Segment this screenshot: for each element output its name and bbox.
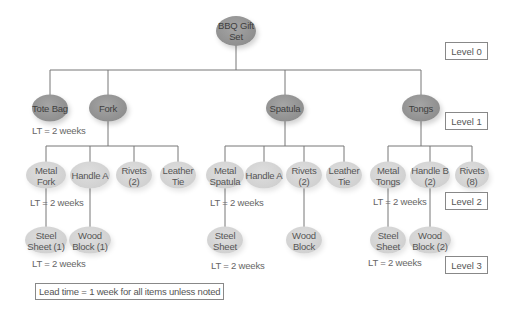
lead-time-steel-sheet-tongs: LT = 2 weeks	[368, 257, 422, 268]
level-1-label: Level 1	[445, 112, 488, 130]
node-metal-spatula: Metal Spatula	[206, 162, 244, 189]
node-steel-sheet-tongs: Steel Sheet	[370, 227, 406, 254]
node-metal-tongs: Metal Tongs	[370, 162, 406, 189]
node-tote-bag: Tote Bag	[32, 95, 68, 122]
node-spatula: Spatula	[266, 95, 304, 122]
node-leather-tie-fork: Leather Tie	[160, 162, 196, 189]
level-0-label: Level 0	[445, 42, 488, 60]
lead-time-metal-fork: LT = 2 weeks	[30, 197, 84, 208]
node-wood-block-2: Wood Block (2)	[409, 227, 451, 254]
node-bbq-gift-set: BBQ Gift Set	[216, 16, 256, 46]
node-handle-a-fork: Handle A	[70, 162, 110, 189]
node-wood-block-1: Wood Block (1)	[69, 227, 111, 254]
lead-time-tote-bag: LT = 2 weeks	[32, 125, 86, 136]
node-rivets-2-spatula: Rivets (2)	[286, 162, 322, 189]
lead-time-note: Lead time = 1 week for all items unless …	[35, 283, 224, 300]
lead-time-steel-sheet-spatula: LT = 2 weeks	[211, 260, 265, 271]
node-fork: Fork	[89, 95, 127, 122]
level-2-label: Level 2	[445, 192, 488, 210]
lead-time-metal-spatula: LT = 2 weeks	[210, 197, 264, 208]
lead-time-metal-tongs: LT = 2 weeks	[373, 196, 427, 207]
node-leather-tie-spatula: Leather Tie	[326, 162, 362, 189]
node-handle-b-2: Handle B (2)	[410, 162, 450, 189]
node-wood-block-spatula: Wood Block	[286, 227, 322, 254]
node-steel-sheet-1: Steel Sheet (1)	[25, 227, 67, 254]
node-steel-sheet-spatula: Steel Sheet	[207, 227, 243, 254]
node-metal-fork: Metal Fork	[26, 162, 66, 189]
node-rivets-2-fork: Rivets (2)	[116, 162, 152, 189]
level-3-label: Level 3	[445, 256, 488, 274]
node-tongs: Tongs	[402, 95, 440, 122]
lead-time-steel-sheet-fork: LT = 2 weeks	[32, 258, 86, 269]
node-handle-a-spatula: Handle A	[245, 162, 283, 189]
node-rivets-8: Rivets (8)	[455, 162, 489, 189]
